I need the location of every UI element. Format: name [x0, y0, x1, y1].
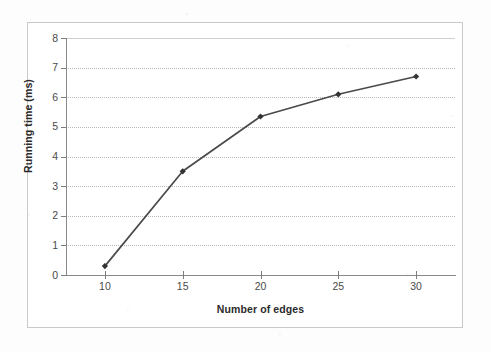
data-series-layer — [0, 0, 491, 352]
series-markers-group — [102, 73, 419, 269]
series-line-running-time — [105, 77, 416, 267]
data-point-25 — [335, 91, 341, 97]
data-point-30 — [413, 73, 419, 79]
